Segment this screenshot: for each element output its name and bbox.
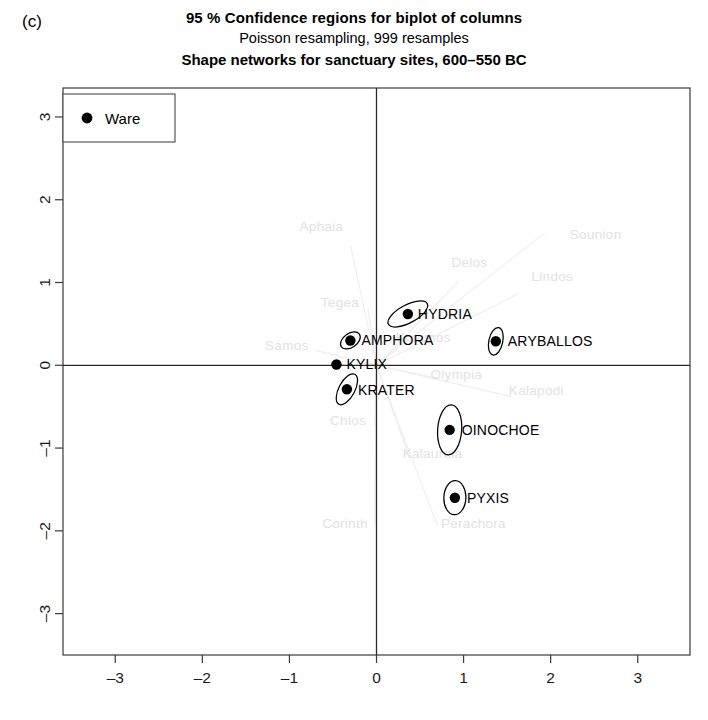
- data-point[interactable]: [331, 359, 341, 369]
- data-point[interactable]: [444, 425, 454, 435]
- site-label: Kalapodi: [509, 383, 564, 398]
- ware-label: PYXIS: [467, 490, 509, 506]
- x-tick-label: 2: [546, 669, 555, 686]
- x-tick-label: –2: [194, 669, 211, 686]
- y-tick-label: 2: [37, 195, 54, 204]
- legend-label: Ware: [105, 110, 140, 127]
- site-label: Delos: [451, 255, 487, 270]
- biplot-figure: (c) 95 % Confidence regions for biplot o…: [0, 0, 708, 720]
- site-label: Perachora: [441, 516, 506, 531]
- y-tick-label: –1: [37, 439, 54, 456]
- site-label: Chios: [330, 413, 366, 428]
- site-ray: [377, 281, 460, 365]
- x-tick-label: –1: [281, 669, 298, 686]
- data-point[interactable]: [403, 309, 413, 319]
- site-label: Corinth: [322, 516, 368, 531]
- x-tick-label: –3: [107, 669, 124, 686]
- scatter-plot-canvas: AphaiaDelosSounionLindosTegeaSamosKommos…: [0, 0, 708, 720]
- data-point[interactable]: [491, 336, 501, 346]
- site-label: Sounion: [570, 227, 622, 242]
- site-label: Olympia: [430, 367, 482, 382]
- site-label: Samos: [265, 338, 309, 353]
- x-tick-label: 0: [372, 669, 381, 686]
- data-point[interactable]: [450, 493, 460, 503]
- ware-label: OINOCHOE: [462, 422, 540, 438]
- site-label: Lindos: [532, 269, 574, 284]
- site-label: Kalaureia: [403, 446, 463, 461]
- y-tick-label: –2: [37, 522, 54, 539]
- ware-label: HYDRIA: [418, 306, 473, 322]
- ware-label: KRATER: [358, 382, 415, 398]
- site-label: Aphaia: [300, 219, 344, 234]
- legend-marker-icon: [82, 113, 93, 124]
- y-tick-label: 0: [37, 361, 54, 370]
- ware-label: ARYBALLOS: [508, 333, 593, 349]
- ware-label: AMPHORA: [361, 332, 434, 348]
- y-tick-label: 3: [37, 113, 54, 122]
- legend[interactable]: Ware: [63, 94, 175, 142]
- site-label: Tegea: [321, 295, 359, 310]
- y-tick-label: –3: [37, 605, 54, 622]
- x-tick-label: 1: [459, 669, 468, 686]
- data-point[interactable]: [345, 335, 355, 345]
- y-tick-label: 1: [37, 278, 54, 287]
- site-label-layer: AphaiaDelosSounionLindosTegeaSamosKommos…: [265, 219, 621, 530]
- x-tick-label: 3: [633, 669, 642, 686]
- data-point[interactable]: [342, 384, 352, 394]
- ware-label: KYLIX: [346, 356, 387, 372]
- tick-layer: –3–2–10123–3–2–10123: [37, 113, 643, 686]
